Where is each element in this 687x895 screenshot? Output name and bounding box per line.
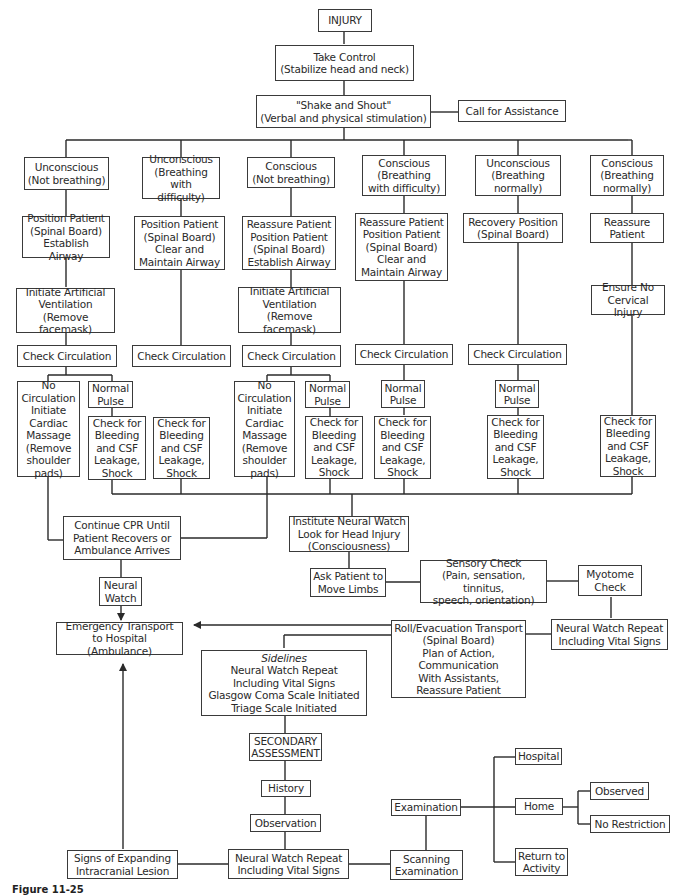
node-check-bleeding-3: Check for Bleeding and CSF Leakage, Shoc… xyxy=(305,416,363,479)
node-sidelines: Sidelines Neural Watch Repeat Including … xyxy=(201,650,367,716)
node-normal-pulse-2: Normal Pulse xyxy=(305,381,350,408)
node-hospital: Hospital xyxy=(515,748,562,765)
node-check-circulation-5: Check Circulation xyxy=(468,344,567,365)
node-scanning-examination: Scanning Examination xyxy=(390,850,463,880)
node-no-circulation-1: No Circulation Initiate Cardiac Massage … xyxy=(17,381,80,477)
node-return-to-activity: Return to Activity xyxy=(515,848,568,876)
node-check-bleeding-5: Check for Bleeding and CSF Leakage, Shoc… xyxy=(487,415,544,479)
node-continue-cpr: Continue CPR Until Patient Recovers or A… xyxy=(63,516,181,560)
node-reassure-patient: Reassure Patient xyxy=(590,213,664,243)
node-check-bleeding-2: Check for Bleeding and CSF Leakage, Shoc… xyxy=(153,417,210,479)
node-home: Home xyxy=(515,798,563,815)
node-check-bleeding-4: Check for Bleeding and CSF Leakage, Shoc… xyxy=(374,416,431,479)
node-shake-and-shout: "Shake and Shout" (Verbal and physical s… xyxy=(256,95,431,128)
sidelines-body: Neural Watch Repeat Including Vital Sign… xyxy=(208,664,359,714)
node-unconscious-breathing-difficulty: Unconscious (Breathing with difficulty) xyxy=(142,157,220,199)
node-conscious-breathing-normally: Conscious (Breathing normally) xyxy=(590,155,664,196)
node-conscious-breathing-difficulty: Conscious (Breathing with difficulty) xyxy=(362,155,446,196)
node-check-circulation-3: Check Circulation xyxy=(242,345,341,367)
node-neural-watch: Neural Watch xyxy=(99,577,142,606)
node-unconscious-not-breathing: Unconscious (Not breathing) xyxy=(24,157,109,190)
node-call-for-assistance: Call for Assistance xyxy=(458,100,566,122)
node-conscious-not-breathing: Conscious (Not breathing) xyxy=(247,157,335,188)
node-history: History xyxy=(261,780,311,797)
node-myotome-check: Myotome Check xyxy=(578,565,642,596)
node-check-circulation-1: Check Circulation xyxy=(17,345,117,367)
node-normal-pulse-4: Normal Pulse xyxy=(495,380,539,408)
node-emergency-transport: Emergency Transport to Hospital (Ambulan… xyxy=(56,622,183,655)
node-observed: Observed xyxy=(590,782,649,800)
sidelines-title: Sidelines xyxy=(261,652,306,665)
node-no-restriction: No Restriction xyxy=(590,815,670,833)
node-neural-watch-repeat-bottom: Neural Watch Repeat Including Vital Sign… xyxy=(228,849,349,879)
node-roll-evacuation-transport: Roll/Evacuation Transport (Spinal Board)… xyxy=(391,620,526,698)
node-observation: Observation xyxy=(250,814,321,832)
node-signs-expanding-lesion: Signs of Expanding Intracranial Lesion xyxy=(67,850,178,879)
node-reassure-position-establish-airway: Reassure Patient Position Patient (Spina… xyxy=(242,216,336,270)
node-sensory-check: Sensory Check (Pain, sensation, tinnitus… xyxy=(420,560,547,603)
node-position-patient-establish-airway: Position Patient (Spinal Board) Establis… xyxy=(22,216,110,258)
node-reassure-position-clear-airway: Reassure Patient Position Patient (Spina… xyxy=(355,213,448,281)
node-neural-watch-repeat-right: Neural Watch Repeat Including Vital Sign… xyxy=(551,619,668,650)
node-recovery-position: Recovery Position (Spinal Board) xyxy=(463,213,563,243)
node-check-circulation-2: Check Circulation xyxy=(132,345,231,367)
node-initiate-ventilation-2: Initiate Artificial Ventilation (Remove … xyxy=(238,287,341,333)
node-check-bleeding-1: Check for Bleeding and CSF Leakage, Shoc… xyxy=(88,416,146,480)
node-ask-patient-move-limbs: Ask Patient to Move Limbs xyxy=(310,568,386,597)
node-normal-pulse-3: Normal Pulse xyxy=(381,380,425,408)
node-initiate-ventilation-1: Initiate Artificial Ventilation (Remove … xyxy=(16,288,115,333)
node-institute-neural-watch: Institute Neural Watch Look for Head Inj… xyxy=(289,516,409,552)
node-secondary-assessment: SECONDARY ASSESSMENT xyxy=(249,733,322,761)
node-check-circulation-4: Check Circulation xyxy=(355,344,453,365)
node-examination: Examination xyxy=(391,799,461,816)
node-no-circulation-2: No Circulation Initiate Cardiac Massage … xyxy=(234,381,295,477)
node-injury: INJURY xyxy=(318,9,372,32)
node-check-bleeding-6: Check for Bleeding and CSF Leakage, Shoc… xyxy=(600,415,656,477)
node-normal-pulse-1: Normal Pulse xyxy=(88,381,133,408)
node-ensure-no-cervical-injury: Ensure No Cervical Injury xyxy=(591,285,665,315)
node-take-control: Take Control (Stabilize head and neck) xyxy=(275,45,414,81)
node-position-patient-clear-airway: Position Patient (Spinal Board) Clear an… xyxy=(134,216,225,270)
node-unconscious-breathing-normally: Unconscious (Breathing normally) xyxy=(475,155,561,196)
figure-caption: Figure 11-25 xyxy=(12,884,84,895)
